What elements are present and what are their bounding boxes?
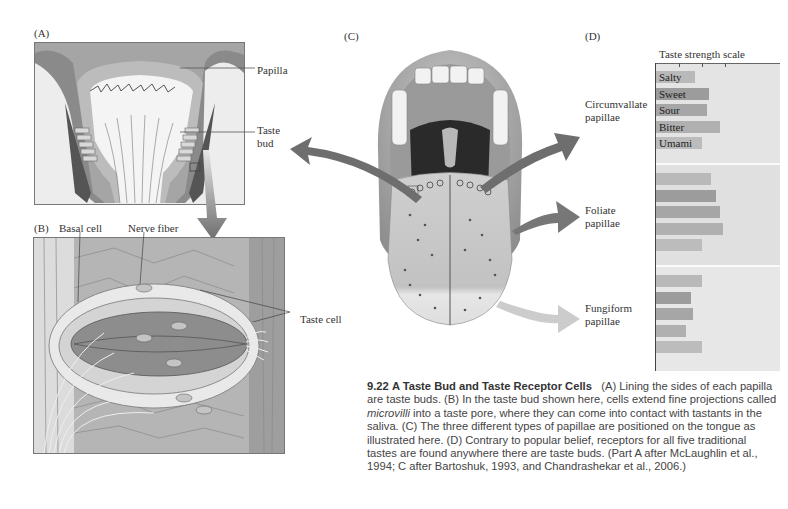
panel-a-leader-lines: [180, 55, 260, 145]
bar-salty: [656, 173, 711, 185]
tongue-arrows: [290, 125, 600, 335]
bar-sweet: [656, 190, 716, 202]
arrow-to-circumvallate-icon: [480, 133, 580, 193]
circumvallate-label-line1: Circumvallate: [585, 98, 647, 111]
taste-strength-chart: SaltySweetSourBitterUmami: [655, 63, 780, 371]
arrow-a-to-b-icon: [195, 150, 235, 245]
panel-b-letter: (B): [34, 222, 49, 234]
bar-label: Sweet: [656, 88, 709, 100]
panel-c-letter: (C): [344, 30, 359, 42]
foliate-label-line1: Foliate: [585, 204, 620, 217]
papilla-label: Papilla: [257, 64, 288, 77]
chart-top-axis: [655, 63, 780, 64]
caption-text-2: into a taste pore, where they can come i…: [367, 407, 762, 473]
chart-title: Taste strength scale: [659, 48, 745, 61]
circumvallate-label-line2: papillae: [585, 111, 647, 124]
circumvallate-label: Circumvallate papillae: [585, 98, 647, 124]
axis-tick: [725, 63, 726, 67]
bar-sour: [656, 206, 720, 218]
bar-salty: Salty: [656, 71, 695, 83]
arrow-to-taste-bud-icon: [290, 137, 422, 203]
bar-bitter: [656, 325, 686, 337]
bar-umami: [656, 341, 702, 353]
fungiform-label-line1: Fungiform: [585, 302, 632, 315]
foliate-label: Foliate papillae: [585, 204, 620, 230]
bar-sour: [656, 308, 693, 320]
bar-bitter: Bitter: [656, 121, 720, 133]
axis-tick: [679, 63, 680, 67]
axis-tick: [702, 63, 703, 67]
figure-title: A Taste Bud and Taste Receptor Cells: [392, 380, 592, 392]
arrow-to-fungiform-icon: [496, 301, 580, 333]
panel-d-letter: (D): [585, 30, 600, 42]
bar-label: Umami: [656, 137, 702, 149]
arrow-to-foliate-icon: [512, 201, 580, 235]
bar-umami: Umami: [656, 137, 702, 149]
foliate-label-line2: papillae: [585, 217, 620, 230]
taste-bud-label-line2: bud: [257, 137, 280, 150]
bar-sweet: Sweet: [656, 88, 709, 100]
taste-bud-label-line1: Taste: [257, 124, 280, 137]
panel-a-letter: (A): [34, 27, 49, 39]
bar-bitter: [656, 223, 723, 235]
bar-salty: [656, 275, 702, 287]
bar-label: Sour: [656, 104, 707, 116]
figure-number: 9.22: [367, 380, 389, 392]
taste-bud-label: Taste bud: [257, 124, 280, 150]
caption-italic-term: microvilli: [367, 407, 410, 419]
figure-caption: 9.22 A Taste Bud and Taste Receptor Cell…: [367, 380, 779, 474]
fungiform-label-line2: papillae: [585, 315, 632, 328]
bar-umami: [656, 239, 702, 251]
bar-label: Bitter: [656, 121, 720, 133]
panel-b-leader-lines: [60, 232, 300, 322]
bar-label: Salty: [656, 71, 695, 83]
bar-sweet: [656, 292, 691, 304]
fungiform-label: Fungiform papillae: [585, 302, 632, 328]
bar-sour: Sour: [656, 104, 707, 116]
